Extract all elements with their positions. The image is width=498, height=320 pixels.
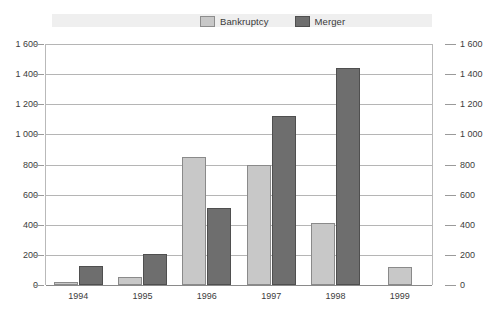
bar-bankruptcy-1994[interactable] <box>54 282 78 285</box>
legend-swatch-icon-bankruptcy <box>200 16 215 27</box>
x-tick-label: 1996 <box>175 290 239 302</box>
bar-merger-1994[interactable] <box>79 266 103 285</box>
y-tick-label-right: 600 <box>460 190 475 201</box>
bar-merger-1997[interactable] <box>272 116 296 285</box>
zero-axis-line <box>46 285 432 286</box>
y-tick-mark-left <box>33 195 44 196</box>
y-tick-mark-left <box>33 44 44 45</box>
y-tick-mark-right <box>445 165 456 166</box>
x-tick-label: 1999 <box>368 290 432 302</box>
y-tick-mark-left <box>33 74 44 75</box>
legend-item-merger[interactable]: Merger <box>295 16 346 27</box>
legend-label-merger: Merger <box>315 16 346 27</box>
y-tick-label-right: 0 <box>460 280 465 291</box>
bar-merger-1998[interactable] <box>336 68 360 285</box>
bar-group <box>368 44 432 285</box>
y-tick-mark-left <box>33 255 44 256</box>
bar-merger-1995[interactable] <box>143 254 167 285</box>
y-tick-mark-right <box>445 255 456 256</box>
bar-bankruptcy-1997[interactable] <box>247 165 271 285</box>
x-tick-label: 1997 <box>239 290 303 302</box>
x-tick-label: 1994 <box>46 290 110 302</box>
y-tick-mark-right <box>445 104 456 105</box>
y-tick-mark-left <box>33 104 44 105</box>
bars-layer <box>46 44 432 285</box>
y-tick-mark-left <box>33 225 44 226</box>
legend-label-bankruptcy: Bankruptcy <box>220 16 269 27</box>
y-tick-label-right: 800 <box>460 160 475 171</box>
y-tick-mark-left <box>33 134 44 135</box>
x-axis: 199419951996199719981999 <box>46 290 432 304</box>
bar-merger-1996[interactable] <box>207 208 231 285</box>
y-axis-right: 02004006008001 0001 2001 4001 600 <box>443 44 488 285</box>
y-tick-label-right: 1 400 <box>460 69 483 80</box>
bar-bankruptcy-1995[interactable] <box>118 277 142 285</box>
y-tick-mark-left <box>33 285 44 286</box>
legend-swatch-icon-merger <box>295 16 310 27</box>
y-tick-mark-right <box>445 195 456 196</box>
y-tick-label-right: 1 600 <box>460 39 483 50</box>
bar-bankruptcy-1998[interactable] <box>311 223 335 286</box>
y-tick-mark-right <box>445 134 456 135</box>
bar-group <box>175 44 239 285</box>
x-tick-label: 1998 <box>303 290 367 302</box>
y-axis-left: 02004006008001 0001 2001 4001 600 <box>0 44 38 285</box>
y-tick-mark-right <box>445 285 456 286</box>
bar-chart: Bankruptcy Merger 02004006008001 0001 20… <box>0 0 498 320</box>
legend-item-bankruptcy[interactable]: Bankruptcy <box>200 16 269 27</box>
y-tick-label-right: 1 000 <box>460 129 483 140</box>
bar-bankruptcy-1996[interactable] <box>182 157 206 285</box>
y-tick-mark-right <box>445 74 456 75</box>
y-tick-label-right: 400 <box>460 220 475 231</box>
y-tick-mark-left <box>33 165 44 166</box>
bar-group <box>46 44 110 285</box>
y-tick-mark-right <box>445 225 456 226</box>
y-tick-label-right: 200 <box>460 250 475 261</box>
x-tick-label: 1995 <box>110 290 174 302</box>
y-tick-mark-right <box>445 44 456 45</box>
y-tick-label-right: 1 200 <box>460 99 483 110</box>
bar-group <box>239 44 303 285</box>
bar-group <box>110 44 174 285</box>
bar-bankruptcy-1999[interactable] <box>388 267 412 285</box>
chart-legend: Bankruptcy Merger <box>200 13 345 29</box>
bar-group <box>303 44 367 285</box>
